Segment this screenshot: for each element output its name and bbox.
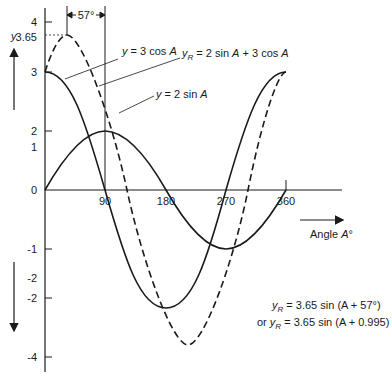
y-tick-1: 1 — [31, 141, 37, 153]
sin-label: y = 2 sin A — [155, 88, 208, 100]
svg-text:2: 2 — [31, 125, 37, 137]
svg-text:0: 0 — [31, 184, 37, 196]
svg-text:3.65: 3.65 — [16, 31, 37, 43]
svg-text:-4: -4 — [27, 351, 37, 363]
x-axis-label: Angle A° — [310, 228, 353, 240]
cos-leader — [65, 59, 118, 79]
sine-waves-chart: 4 3.65 3 2 0 -1 -2 -4 1 -2 90 180 270 36… — [0, 0, 392, 378]
resultant-label: yR = 2 sin A + 3 cos A — [181, 47, 289, 62]
svg-text:4: 4 — [31, 16, 37, 28]
result-equation-2: or yR = 3.65 sin (A + 0.995) — [257, 316, 389, 331]
cos-label: y = 3 cos A — [121, 45, 177, 57]
svg-text:270: 270 — [217, 195, 235, 207]
y-tick-labels: 4 3.65 3 2 0 -1 -2 -4 — [16, 16, 37, 363]
phase-shift-dimension — [67, 6, 105, 190]
resultant-leader — [99, 58, 180, 86]
y-tick-neg2: -2 — [27, 272, 37, 284]
svg-text:-2: -2 — [27, 292, 37, 304]
phase-shift-label: 57° — [78, 9, 95, 21]
sin-leader — [119, 96, 154, 113]
svg-text:-1: -1 — [27, 243, 37, 255]
result-equation-1: yR = 3.65 sin (A + 57°) — [271, 299, 381, 314]
svg-text:3: 3 — [31, 66, 37, 78]
